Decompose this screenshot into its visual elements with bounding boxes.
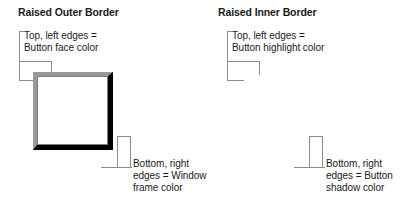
panel-raised-inner-border: Raised Inner Border Top, left edges = Bu… (208, 0, 416, 205)
raised-border-figure: Raised Outer Border Top, left edges = Bu… (0, 0, 416, 205)
callout-bottom-right-edges: Bottom, right edges = Window frame color (133, 158, 207, 195)
leader-line-bottomright-lower (101, 167, 132, 168)
leader-line-topleft-spine (19, 31, 20, 80)
leader-line-bottomright-drop (130, 136, 131, 167)
box-inner-hairline (37, 76, 108, 145)
panel-heading: Raised Inner Border (218, 6, 316, 18)
leader-line-topleft-branch-upper (19, 61, 52, 62)
panel-raised-outer-border: Raised Outer Border Top, left edges = Bu… (0, 0, 208, 205)
callout-top-left-edges: Top, left edges = Button highlight color (232, 30, 324, 54)
leader-line-topleft-tick (227, 31, 232, 32)
callout-top-left-edges: Top, left edges = Button face color (24, 30, 98, 54)
leader-line-topleft-branch-upper (227, 61, 260, 62)
leader-line-bottomright-lower (294, 167, 325, 168)
leader-line-bottomright-upper (117, 136, 131, 137)
panel-heading: Raised Outer Border (18, 6, 119, 18)
leader-line-bottomright-drop (322, 136, 323, 167)
leader-line-bottomright-riser (309, 136, 310, 167)
leader-line-topleft-riser (259, 61, 260, 75)
leader-line-bottomright-upper (309, 136, 323, 137)
leader-line-bottomright-riser (117, 136, 118, 167)
leader-line-topleft-spine (227, 31, 228, 80)
sample-raised-outer-button (33, 72, 113, 150)
leader-line-topleft-branch-lower (227, 80, 244, 81)
leader-line-topleft-tick (19, 31, 24, 32)
callout-bottom-right-edges: Bottom, right edges = Button shadow colo… (326, 158, 393, 195)
